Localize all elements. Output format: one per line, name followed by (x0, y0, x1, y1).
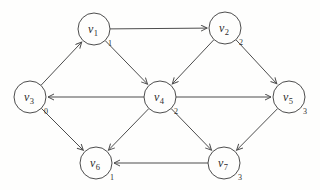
node-value-label-v2: 2 (239, 38, 243, 47)
node-value-label-v4: 2 (174, 107, 178, 116)
edge-v4-v6 (109, 109, 149, 151)
node-v5: v53 (273, 81, 307, 116)
node-value-label-v6: 1 (110, 173, 114, 182)
node-v3: v30 (14, 81, 48, 116)
node-value-label-v7: 3 (238, 173, 242, 182)
edge-v2-v4 (172, 40, 214, 84)
node-value-label-v5: 3 (303, 107, 307, 116)
node-v7: v73 (208, 147, 242, 182)
graph-canvas: v11v22v30v42v53v61v73 (0, 0, 320, 190)
node-value-label-v1: 1 (108, 39, 112, 48)
node-v6: v61 (80, 147, 114, 182)
graph-diagram: v11v22v30v42v53v61v73 (0, 0, 320, 190)
node-value-label-v3: 0 (44, 107, 48, 116)
edge-v3-v1 (41, 42, 82, 85)
edge-v5-v7 (237, 108, 278, 150)
edge-v1-v2 (110, 28, 207, 29)
